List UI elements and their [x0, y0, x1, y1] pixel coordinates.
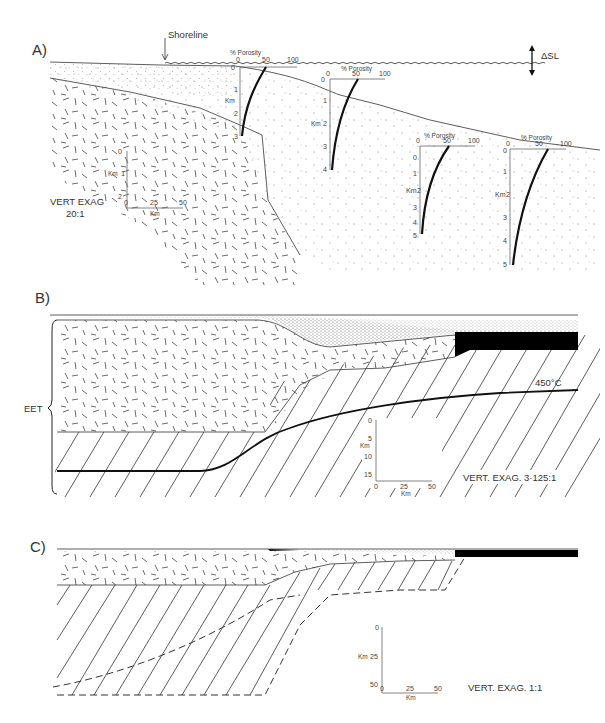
svg-text:3: 3: [234, 133, 238, 140]
panel-c: C) 0 Km 25: [30, 538, 578, 701]
svg-text:1: 1: [503, 168, 507, 175]
svg-text:0: 0: [124, 199, 128, 206]
svg-text:0: 0: [236, 56, 240, 63]
svg-text:15: 15: [364, 471, 372, 478]
panel-a: A) Shoreline ΔSL % Porosity 0 50 100 0 1: [32, 29, 600, 285]
svg-text:2: 2: [118, 193, 122, 200]
svg-text:% Porosity: % Porosity: [424, 132, 456, 140]
svg-text:5: 5: [368, 435, 372, 442]
isotherm-label: 450°C: [535, 377, 562, 388]
moho-dashed: [53, 595, 300, 687]
oceanic-crust-block: [455, 550, 578, 557]
panel-b: B) EET: [24, 289, 605, 497]
svg-text:1: 1: [413, 170, 417, 177]
svg-text:1: 1: [234, 86, 238, 93]
svg-text:100: 100: [379, 70, 391, 77]
shoreline-label: Shoreline: [168, 29, 208, 40]
eet-brace: [48, 320, 57, 494]
vert-exag-value-a: 20:1: [66, 208, 85, 219]
sea-surface: [165, 62, 545, 64]
svg-text:1: 1: [121, 170, 125, 177]
svg-text:25: 25: [406, 685, 414, 692]
svg-text:4: 4: [413, 219, 417, 226]
svg-text:0: 0: [506, 140, 510, 147]
svg-text:4: 4: [503, 237, 507, 244]
svg-text:Km: Km: [225, 97, 235, 104]
svg-text:25: 25: [150, 199, 158, 206]
svg-text:100: 100: [468, 137, 480, 144]
svg-text:2: 2: [234, 110, 238, 117]
porosity-title: % Porosity: [230, 49, 262, 57]
svg-text:50: 50: [434, 685, 442, 692]
svg-text:0: 0: [374, 483, 378, 490]
svg-text:3: 3: [503, 214, 507, 221]
svg-text:25: 25: [370, 653, 378, 660]
svg-text:2: 2: [506, 191, 510, 198]
vert-exag-label-c: VERT. EXAG. 1:1: [468, 682, 542, 693]
svg-text:50: 50: [428, 483, 436, 490]
svg-text:0: 0: [413, 154, 417, 161]
panel-a-label: A): [32, 41, 47, 58]
figure-canvas: A) Shoreline ΔSL % Porosity 0 50 100 0 1: [0, 0, 605, 723]
svg-text:50: 50: [443, 137, 451, 144]
svg-text:25: 25: [400, 483, 408, 490]
svg-text:3: 3: [413, 204, 417, 211]
oceanic-crust-block: [455, 332, 578, 357]
svg-text:2: 2: [323, 120, 327, 127]
svg-text:50: 50: [179, 199, 187, 206]
scale-bar-b: 0 5 Km 10 15 0 25 50 Km: [360, 417, 442, 497]
svg-text:2: 2: [417, 187, 421, 194]
svg-text:0: 0: [326, 70, 330, 77]
svg-text:Km: Km: [495, 191, 506, 198]
vert-exag-label-a: VERT EXAG: [50, 196, 104, 207]
svg-text:Km: Km: [401, 490, 411, 497]
scale-bar-c: 0 Km 25 50 0 25 50 Km: [358, 624, 442, 701]
svg-text:50: 50: [370, 681, 378, 688]
svg-text:Km: Km: [150, 210, 160, 217]
svg-text:50: 50: [262, 56, 270, 63]
svg-text:0: 0: [368, 417, 372, 424]
svg-text:0: 0: [375, 624, 379, 631]
svg-text:50: 50: [535, 140, 543, 147]
svg-text:50: 50: [352, 70, 360, 77]
svg-text:5: 5: [413, 232, 417, 239]
svg-text:Km: Km: [358, 653, 368, 660]
continental-crust: [57, 551, 455, 585]
svg-text:1: 1: [323, 97, 327, 104]
svg-text:0: 0: [321, 76, 325, 83]
svg-text:100: 100: [560, 140, 572, 147]
svg-text:100: 100: [287, 56, 299, 63]
svg-text:Km: Km: [406, 187, 417, 194]
svg-text:Km: Km: [311, 120, 321, 127]
panel-b-label: B): [35, 289, 50, 306]
svg-text:0: 0: [118, 148, 122, 155]
svg-text:Km: Km: [108, 170, 118, 177]
svg-text:0: 0: [416, 137, 420, 144]
svg-text:3: 3: [323, 143, 327, 150]
svg-text:0: 0: [231, 64, 235, 71]
svg-text:Km: Km: [360, 442, 370, 449]
eet-label: EET: [24, 403, 43, 414]
panel-c-label: C): [30, 538, 46, 555]
vert-exag-label-b: VERT. EXAG. 3·125:1: [463, 472, 556, 483]
svg-text:Km: Km: [406, 694, 416, 701]
svg-text:4: 4: [323, 166, 327, 173]
svg-text:5: 5: [503, 261, 507, 268]
svg-text:10: 10: [364, 453, 372, 460]
svg-text:0: 0: [503, 147, 507, 154]
sea-level-change-label: ΔSL: [541, 50, 559, 61]
svg-text:0: 0: [380, 685, 384, 692]
